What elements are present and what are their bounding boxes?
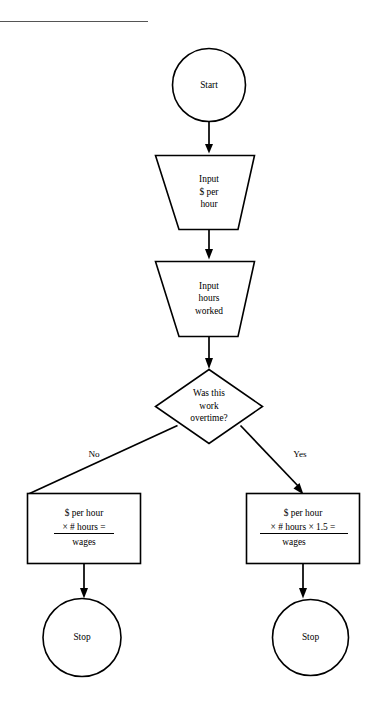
node-process-regular-line-1: $ per hour (65, 508, 104, 518)
node-input-rate-line-1: Input (199, 174, 219, 184)
node-process-regular-line-3: wages (72, 537, 96, 547)
arrowhead-input-hours-to-decision (205, 358, 213, 369)
node-decision-line-3: overtime? (190, 413, 227, 423)
flowchart-canvas: Start Input $ per hour Input hours worke… (0, 0, 389, 720)
node-process-overtime-line-2: × # hours × 1.5 = (271, 522, 336, 532)
node-input-hours-line-1: Input (199, 281, 219, 291)
arrowhead-regular-to-stop-left (80, 588, 88, 599)
flowchart-svg: Start Input $ per hour Input hours worke… (0, 0, 389, 720)
node-input-hours-line-3: worked (195, 306, 223, 316)
node-process-overtime-line-3: wages (282, 537, 306, 547)
node-input-hours-line-2: hours (199, 293, 220, 303)
arrowhead-input-rate-to-input-hours (205, 249, 213, 260)
node-start-label: Start (200, 80, 218, 90)
node-stop-left-label: Stop (73, 632, 91, 642)
edge-label-no: No (88, 449, 100, 459)
node-input-rate-line-2: $ per (199, 187, 219, 197)
node-decision-line-1: Was this (193, 388, 225, 398)
node-decision-line-2: work (199, 401, 219, 411)
node-input-rate-line-3: hour (200, 199, 218, 209)
arrowhead-overtime-to-stop-right (299, 588, 307, 599)
node-process-overtime-line-1: $ per hour (284, 508, 323, 518)
arrowhead-start-to-input-rate (205, 144, 213, 154)
edge-decision-yes (241, 426, 301, 489)
node-stop-right-label: Stop (302, 632, 320, 642)
edge-label-yes: Yes (293, 449, 307, 459)
edge-decision-no (29, 426, 178, 495)
node-process-regular-line-2: × # hours = (62, 522, 105, 532)
